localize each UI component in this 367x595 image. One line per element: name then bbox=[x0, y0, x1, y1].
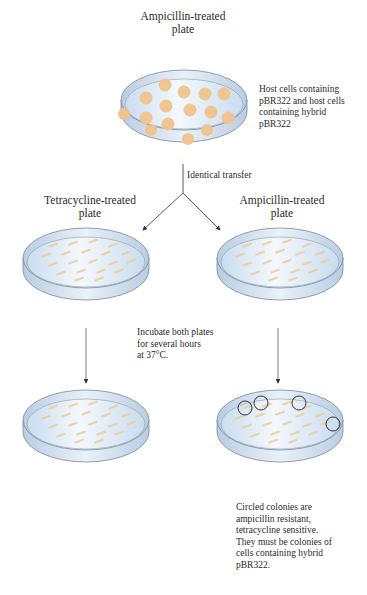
ampicillin-plate-incubated bbox=[217, 390, 343, 462]
title-line: plate bbox=[118, 23, 248, 36]
note-line: cells containing hybrid bbox=[236, 548, 332, 560]
transfer-label: Identical transfer bbox=[187, 170, 252, 182]
note-line: They must be colonies of bbox=[236, 537, 332, 549]
top-plate bbox=[118, 70, 247, 145]
annotation-line: pBR322 bbox=[259, 119, 345, 131]
annotation-line: pBR322 and host cells bbox=[259, 96, 345, 108]
title-line: Ampicillin-treated bbox=[212, 194, 352, 207]
tetracycline-plate-incubated bbox=[23, 390, 149, 462]
top-plate-title: Ampicillin-treated plate bbox=[118, 10, 248, 36]
top-annotation: Host cells containing pBR322 and host ce… bbox=[259, 84, 345, 130]
title-line: Tetracycline-treated bbox=[10, 194, 170, 207]
note-line: at 37°C. bbox=[137, 350, 214, 362]
annotation-line: containing hybrid bbox=[259, 107, 345, 119]
tetracycline-plate bbox=[23, 228, 149, 300]
title-line: Ampicillin-treated bbox=[118, 10, 248, 23]
title-line: plate bbox=[10, 207, 170, 220]
annotation-line: Host cells containing bbox=[259, 84, 345, 96]
note-line: for several hours bbox=[137, 339, 214, 351]
ampicillin-plate bbox=[217, 228, 343, 300]
left-plate-title: Tetracycline-treated plate bbox=[10, 194, 170, 220]
note-line: ampicillin resistant, bbox=[236, 514, 332, 526]
incubate-note: Incubate both plates for several hours a… bbox=[137, 327, 214, 362]
note-line: Incubate both plates bbox=[137, 327, 214, 339]
note-line: tetracycline sensitive. bbox=[236, 525, 332, 537]
right-plate-title: Ampicillin-treated plate bbox=[212, 194, 352, 220]
title-line: plate bbox=[212, 207, 352, 220]
note-line: pBR322. bbox=[236, 560, 332, 572]
conclusion-note: Circled colonies are ampicillin resistan… bbox=[236, 502, 332, 571]
note-line: Circled colonies are bbox=[236, 502, 332, 514]
